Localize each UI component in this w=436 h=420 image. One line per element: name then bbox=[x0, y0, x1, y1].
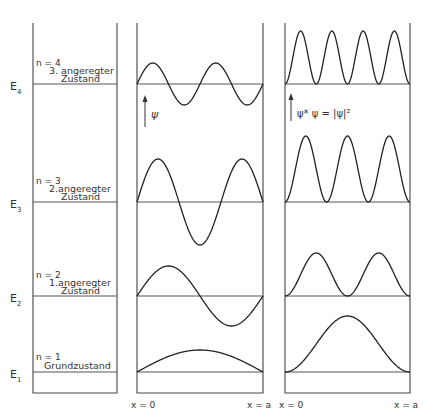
probability-density-panel: ψ* ψ = |ψ|² bbox=[285, 23, 410, 393]
levels-layer: E4n = 43. angeregterZustandE3n = 32.ange… bbox=[10, 58, 410, 384]
arrow-up-icon bbox=[143, 95, 148, 102]
wave-function-panel: ψ bbox=[137, 23, 263, 393]
energy-label: E2 bbox=[10, 292, 21, 308]
state-label: Grundzustand bbox=[44, 360, 111, 371]
density-curve-n3 bbox=[285, 136, 410, 202]
density-curve-n4 bbox=[285, 31, 410, 84]
density-curve-n1 bbox=[285, 316, 410, 372]
state-label-2: Zustand bbox=[61, 285, 100, 296]
state-label-2: Zustand bbox=[61, 191, 100, 202]
arrow-up-icon bbox=[289, 93, 294, 100]
psi-axis-label: ψ bbox=[151, 108, 159, 121]
x-start-label-psi: x = 0 bbox=[131, 400, 156, 410]
psi-curve-n1 bbox=[137, 350, 263, 372]
energy-label: E4 bbox=[10, 80, 22, 96]
density-frame bbox=[285, 23, 410, 393]
psi-frame bbox=[137, 23, 263, 393]
energy-label: E1 bbox=[10, 368, 21, 384]
density-axis-label: ψ* ψ = |ψ|² bbox=[297, 108, 350, 120]
figure: ψ ψ* ψ = |ψ|² E4n = 43. angeregterZustan… bbox=[0, 0, 436, 420]
energy-label: E3 bbox=[10, 198, 21, 214]
x-end-label-psi: x = a bbox=[247, 400, 271, 410]
density-curve-n2 bbox=[285, 253, 410, 296]
x-start-label-density: x = 0 bbox=[279, 400, 304, 410]
x-end-label-density: x = a bbox=[394, 400, 418, 410]
state-label-2: Zustand bbox=[61, 73, 100, 84]
